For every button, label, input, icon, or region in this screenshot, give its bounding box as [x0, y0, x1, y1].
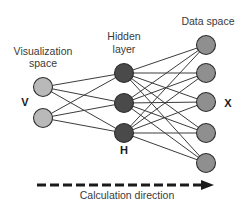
data-node-2: [197, 64, 216, 83]
hidden-node-3: [115, 124, 134, 143]
visualization-node-1: [34, 78, 53, 97]
hidden-to-data-edge: [124, 45, 206, 73]
variable-x-label: X: [224, 97, 232, 109]
hidden-node-1: [115, 64, 134, 83]
hidden-layer-nodes: [115, 64, 134, 143]
data-node-3: [197, 93, 216, 112]
hidden-to-data-edge: [124, 133, 206, 163]
variable-h-label: H: [120, 144, 128, 156]
data-space-nodes: [197, 36, 216, 173]
hidden-layer-label-line1: Hidden: [107, 30, 140, 42]
hidden-to-data-edge: [124, 45, 206, 133]
data-node-4: [197, 124, 216, 143]
arrowhead-icon: [201, 180, 214, 190]
visualization-to-hidden-edge: [43, 118, 124, 133]
neural-network-diagram: Visualization space Hidden layer Data sp…: [0, 0, 247, 209]
visualization-space-nodes: [34, 78, 53, 128]
hidden-node-2: [115, 94, 134, 113]
hidden-layer-label-line2: layer: [113, 43, 136, 55]
visualization-node-2: [34, 109, 53, 128]
visualization-to-hidden-edge: [43, 103, 124, 118]
calculation-direction-label: Calculation direction: [80, 189, 175, 201]
visualization-space-label-line1: Visualization: [14, 45, 73, 57]
visualization-space-label-line2: space: [29, 57, 57, 69]
data-node-5: [197, 154, 216, 173]
variable-v-label: V: [21, 96, 29, 108]
data-space-label: Data space: [181, 15, 234, 27]
hidden-to-data-edge: [124, 45, 206, 103]
data-node-1: [197, 36, 216, 55]
